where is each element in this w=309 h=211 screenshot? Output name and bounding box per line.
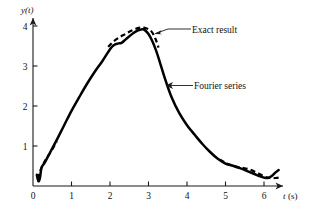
- y-axis-tick-labels: 1 2 3 4: [23, 22, 28, 152]
- x-axis-ticks: [72, 182, 265, 187]
- x-tick-label-0: 0: [31, 191, 36, 201]
- y-tick-label-1: 1: [23, 142, 28, 152]
- exact-result-arrowhead: [154, 30, 162, 34]
- y-tick-label-4: 4: [23, 22, 28, 32]
- x-axis-label-unit: (s): [288, 191, 298, 201]
- axes: [30, 18, 283, 189]
- y-tick-label-2: 2: [23, 102, 28, 112]
- x-axis-label-symbol: t: [283, 191, 286, 201]
- y-tick-label-3: 3: [23, 62, 28, 72]
- x-tick-label-2: 2: [108, 191, 113, 201]
- x-tick-label-4: 4: [185, 191, 190, 201]
- data-curves: [37, 28, 280, 182]
- x-axis-tick-labels: 0 1 2 3 4 5 6: [31, 191, 267, 201]
- annotation-exact-result: Exact result: [192, 25, 237, 35]
- x-tick-label-5: 5: [223, 191, 228, 201]
- x-tick-label-6: 6: [262, 191, 267, 201]
- annotation-fourier-series: Fourier series: [194, 81, 246, 91]
- curve-fourier-series: [37, 29, 279, 181]
- x-tick-label-3: 3: [146, 191, 151, 201]
- chart-svg: 0 1 2 3 4 5 6 1 2 3 4 y(t) t (s) Exact r…: [0, 0, 309, 211]
- figure-chart: 0 1 2 3 4 5 6 1 2 3 4 y(t) t (s) Exact r…: [0, 0, 309, 211]
- y-axis-ticks: [33, 26, 38, 146]
- x-tick-label-1: 1: [69, 191, 74, 201]
- y-axis-label: y(t): [20, 5, 34, 15]
